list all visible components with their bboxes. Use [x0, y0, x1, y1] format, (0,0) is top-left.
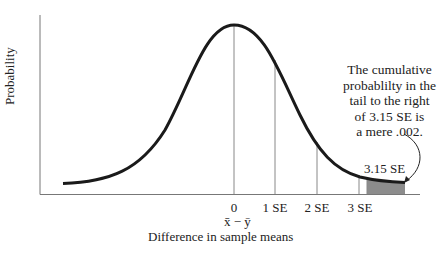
y-axis-label: Probability	[2, 47, 18, 105]
annotation-arrow	[404, 134, 420, 181]
arrowhead-icon	[404, 176, 410, 183]
shade-label: 3.15 SE	[364, 161, 405, 177]
annotation-line: a mere .002.	[332, 124, 447, 140]
tick-label-3se: 3 SE	[348, 200, 373, 216]
annotation-line: The cumulative	[332, 62, 447, 78]
annotation-line: probablilty in the	[332, 78, 447, 94]
tick-label-1se: 1 SE	[263, 200, 288, 216]
annotation-text: The cumulative probablilty in the tail t…	[332, 62, 447, 140]
x-symbol-label: x̄ − ȳ	[224, 214, 251, 230]
annotation-line: tail to the right	[332, 93, 447, 109]
tick-label-2se: 2 SE	[305, 200, 330, 216]
annotation-line: of 3.15 SE is	[332, 109, 447, 125]
x-axis-label: Difference in sample means	[148, 229, 293, 245]
